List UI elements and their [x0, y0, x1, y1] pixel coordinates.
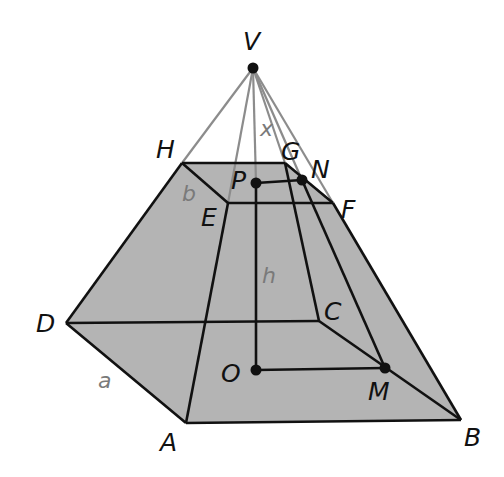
- label-C: C: [324, 297, 342, 326]
- measure-h: h: [262, 263, 276, 288]
- label-P: P: [231, 166, 247, 195]
- label-E: E: [201, 203, 217, 232]
- line-VH: [182, 68, 253, 163]
- label-H: H: [156, 135, 175, 164]
- label-D: D: [36, 309, 55, 338]
- point-O: [251, 365, 262, 376]
- label-F: F: [341, 195, 356, 224]
- measure-x: x: [259, 116, 274, 141]
- label-N: N: [311, 155, 330, 184]
- label-B: B: [464, 423, 481, 452]
- measure-a: a: [98, 368, 111, 393]
- point-M: [380, 363, 391, 374]
- label-M: M: [368, 377, 390, 406]
- point-V: [248, 63, 259, 74]
- measure-b: b: [182, 181, 196, 206]
- label-G: G: [281, 137, 300, 166]
- label-O: O: [221, 359, 241, 388]
- label-A: A: [158, 428, 177, 457]
- point-N: [297, 175, 308, 186]
- point-P: [251, 178, 262, 189]
- label-V: V: [243, 27, 262, 56]
- frustum-diagram: V H G N P E F D C O M A B x b h a: [0, 0, 504, 477]
